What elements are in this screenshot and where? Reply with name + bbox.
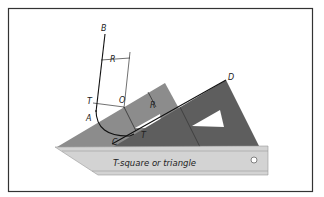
hang-hole-icon — [251, 157, 257, 163]
tsquare-label: T-square or triangle — [113, 158, 196, 168]
label-a: A — [85, 114, 91, 123]
label-r2: R — [150, 101, 156, 110]
label-o: O — [119, 96, 125, 105]
label-b: B — [101, 24, 107, 33]
label-c: C — [112, 138, 118, 147]
diagram-canvas: B R T O R A C T D T-square or triangle — [0, 0, 324, 197]
label-r1: R — [110, 55, 116, 64]
label-d: D — [228, 73, 234, 82]
